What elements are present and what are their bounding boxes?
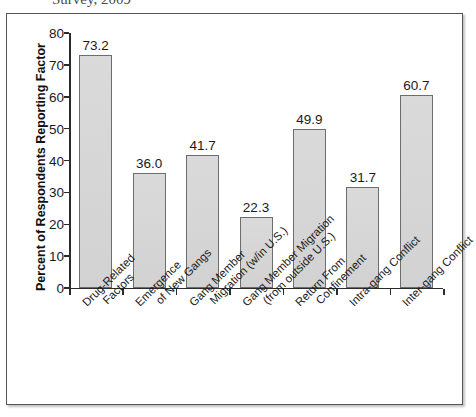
y-tick-label: 60: [24, 89, 64, 104]
y-tick-label: 0: [24, 281, 64, 296]
y-axis-line: [69, 33, 71, 289]
x-tick-mark: [443, 289, 445, 295]
y-tick-mark: [64, 128, 69, 130]
y-tick-mark: [64, 224, 69, 226]
bar: [79, 55, 112, 288]
y-tick-label: 40: [24, 153, 64, 168]
bar-chart: Percent of Respondents Reporting Factor …: [0, 0, 476, 417]
y-tick-mark: [64, 192, 69, 194]
bar-value-label: 41.7: [189, 138, 215, 153]
y-tick-mark: [64, 96, 69, 98]
y-tick-mark: [64, 64, 69, 66]
y-tick-mark: [64, 255, 69, 257]
bar-value-label: 31.7: [350, 170, 376, 185]
y-tick-mark: [64, 32, 69, 34]
bar-value-label: 73.2: [83, 38, 109, 53]
bar-value-label: 36.0: [136, 156, 162, 171]
x-tick-mark: [390, 289, 392, 295]
y-tick-label: 50: [24, 121, 64, 136]
y-tick-label: 80: [24, 26, 64, 41]
y-tick-label: 10: [24, 249, 64, 264]
bar-value-label: 49.9: [296, 112, 322, 127]
y-tick-label: 70: [24, 57, 64, 72]
x-tick-mark: [69, 289, 71, 295]
y-tick-label: 20: [24, 217, 64, 232]
y-tick-label: 30: [24, 185, 64, 200]
bar-value-label: 60.7: [403, 78, 429, 93]
y-tick-mark: [64, 160, 69, 162]
bar-value-label: 22.3: [243, 200, 269, 215]
